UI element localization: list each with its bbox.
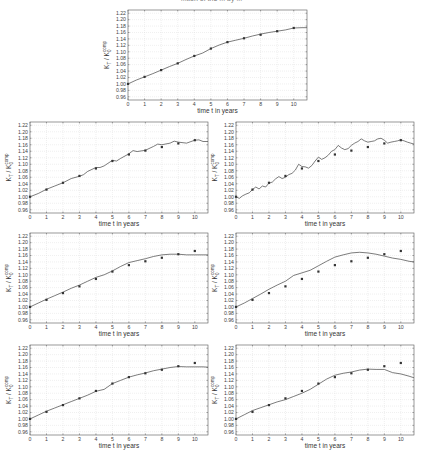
data-point-marker — [78, 175, 80, 177]
y-tick-label: 1.00 — [18, 194, 28, 200]
x-tick-label: 1 — [45, 324, 48, 330]
data-point-marker — [317, 160, 319, 162]
y-tick-label: 1.08 — [18, 168, 28, 174]
y-axis-label: KT / K0comp — [102, 41, 112, 69]
y-axis-label: KT / K0comp — [4, 376, 14, 404]
x-tick-label: 10 — [291, 101, 297, 107]
x-tick-label: 7 — [350, 214, 353, 220]
y-tick-label: 1.16 — [18, 252, 28, 258]
x-tick-label: 9 — [383, 324, 386, 330]
y-axis-label: KT / K0comp — [210, 264, 220, 292]
data-point-marker — [45, 299, 47, 301]
y-tick-label: 1.20 — [18, 129, 28, 135]
y-tick-label: 1.02 — [18, 297, 28, 303]
y-tick-label: 1.20 — [224, 129, 234, 135]
y-tick-label: 1.00 — [18, 416, 28, 422]
y-tick-label: 1.10 — [18, 161, 28, 167]
y-tick-label: 1.12 — [116, 42, 126, 48]
x-tick-label: 7 — [350, 436, 353, 442]
data-point-marker — [210, 47, 212, 49]
y-tick-label: 1.20 — [224, 351, 234, 357]
y-tick-label: 1.20 — [224, 239, 234, 245]
y-tick-label: 1.18 — [18, 135, 28, 141]
x-axis-label: time t in years — [99, 442, 140, 450]
x-tick-label: 4 — [94, 436, 97, 442]
data-point-marker — [128, 376, 130, 378]
data-point-marker — [276, 30, 278, 32]
x-tick-label: 1 — [143, 101, 146, 107]
x-axis-label: time t in years — [305, 330, 346, 338]
x-tick-label: 2 — [268, 214, 271, 220]
x-tick-label: 3 — [78, 436, 81, 442]
model-curve — [30, 140, 208, 197]
plot-frame — [236, 345, 414, 435]
x-tick-label: 4 — [94, 324, 97, 330]
x-tick-label: 7 — [144, 214, 147, 220]
y-tick-label: 1.22 — [224, 345, 234, 351]
y-tick-label: 1.10 — [224, 272, 234, 278]
data-point-marker — [400, 362, 402, 364]
data-point-marker — [235, 196, 237, 198]
y-tick-label: 1.18 — [224, 135, 234, 141]
x-tick-label: 7 — [243, 101, 246, 107]
y-tick-label: 1.22 — [18, 233, 28, 239]
y-tick-label: 1.16 — [18, 142, 28, 148]
y-tick-label: 1.10 — [18, 384, 28, 390]
y-axis-label: KT / K0comp — [210, 376, 220, 404]
data-point-marker — [194, 250, 196, 252]
x-tick-label: 1 — [251, 324, 254, 330]
y-tick-label: 1.16 — [224, 364, 234, 370]
y-tick-label: 1.14 — [224, 148, 234, 154]
data-point-marker — [235, 418, 237, 420]
data-point-marker — [95, 167, 97, 169]
y-tick-label: 1.06 — [224, 174, 234, 180]
y-tick-label: 1.12 — [18, 377, 28, 383]
model-curve — [128, 28, 307, 84]
x-tick-label: 1 — [251, 214, 254, 220]
data-point-marker — [301, 390, 303, 392]
x-tick-label: 2 — [268, 324, 271, 330]
y-tick-label: 1.18 — [224, 358, 234, 364]
y-tick-label: 1.02 — [116, 74, 126, 80]
model-curve — [236, 369, 414, 419]
figure: 0123456789100.960.981.001.021.041.061.08… — [0, 0, 423, 453]
y-tick-label: 1.10 — [224, 161, 234, 167]
y-axis-label: KT / K0comp — [4, 153, 14, 181]
data-point-marker — [284, 175, 286, 177]
y-tick-label: 1.02 — [224, 409, 234, 415]
x-tick-label: 1 — [45, 214, 48, 220]
y-tick-label: 1.02 — [224, 187, 234, 193]
x-axis-label: time t in years — [305, 442, 346, 450]
panel-top: 0123456789100.960.981.001.021.041.061.08… — [102, 10, 308, 115]
data-point-marker — [194, 362, 196, 364]
y-tick-label: 1.00 — [224, 304, 234, 310]
data-point-marker — [293, 27, 295, 29]
y-tick-label: 1.06 — [224, 396, 234, 402]
y-tick-label: 1.22 — [18, 122, 28, 128]
data-point-marker — [350, 260, 352, 262]
x-tick-label: 0 — [235, 436, 238, 442]
y-tick-label: 1.12 — [18, 265, 28, 271]
x-tick-label: 8 — [366, 436, 369, 442]
data-point-marker — [111, 270, 113, 272]
y-tick-label: 0.96 — [224, 317, 234, 323]
panel-row2-left: 0123456789100.960.981.001.021.041.061.08… — [4, 122, 209, 228]
y-tick-label: 1.18 — [18, 358, 28, 364]
data-point-marker — [29, 306, 31, 308]
y-tick-label: 1.02 — [224, 297, 234, 303]
y-tick-label: 0.96 — [224, 207, 234, 213]
data-point-marker — [143, 76, 145, 78]
y-tick-label: 0.98 — [116, 87, 126, 93]
y-tick-label: 0.98 — [18, 200, 28, 206]
x-tick-label: 7 — [144, 436, 147, 442]
y-tick-label: 1.20 — [116, 16, 126, 22]
x-tick-label: 10 — [192, 324, 198, 330]
data-point-marker — [128, 264, 130, 266]
data-point-marker — [367, 146, 369, 148]
data-point-marker — [268, 182, 270, 184]
x-tick-label: 2 — [62, 436, 65, 442]
panel-row4-left: 0123456789100.960.981.001.021.041.061.08… — [4, 345, 209, 450]
data-point-marker — [144, 372, 146, 374]
y-tick-label: 0.96 — [18, 207, 28, 213]
x-tick-label: 9 — [276, 101, 279, 107]
